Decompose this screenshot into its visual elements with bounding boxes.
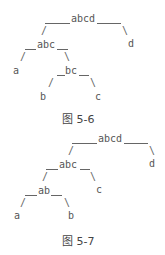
edge-line	[124, 143, 148, 144]
edge-line	[79, 75, 89, 76]
edge-line	[57, 75, 65, 76]
node-abc: abc	[59, 160, 77, 170]
node-a: a	[13, 66, 19, 76]
node-abc: abc	[37, 40, 55, 50]
edge-right: \	[90, 78, 96, 88]
node-abcd: abcd	[98, 134, 122, 144]
node-c: c	[95, 92, 101, 102]
node-b: b	[68, 211, 74, 221]
node-d: d	[128, 39, 134, 49]
edge-right: \	[149, 146, 155, 156]
figure-caption: 图 5-6	[62, 110, 94, 126]
edge-left: /	[41, 26, 47, 36]
node-d: d	[149, 159, 155, 169]
edge-line	[72, 143, 97, 144]
edge-right: \	[122, 26, 128, 36]
edge-line	[25, 49, 36, 50]
edge-line	[25, 195, 37, 196]
edge-line	[51, 195, 62, 196]
edge-line	[80, 169, 90, 170]
edge-right: \	[64, 52, 70, 62]
node-b: b	[40, 92, 46, 102]
edge-left: /	[20, 198, 26, 208]
node-c: c	[96, 185, 102, 195]
node-ab: ab	[38, 186, 50, 196]
edge-left: /	[42, 172, 48, 182]
edge-left: /	[48, 78, 54, 88]
edge-line	[45, 23, 70, 24]
edge-left: /	[68, 146, 74, 156]
edge-right: \	[90, 172, 96, 182]
node-bc: bc	[65, 66, 77, 76]
node-abcd: abcd	[71, 14, 95, 24]
figure-caption: 图 5-7	[62, 232, 94, 248]
edge-line	[46, 169, 58, 170]
edge-right: \	[64, 198, 70, 208]
edge-line	[97, 23, 121, 24]
edge-left: /	[20, 52, 26, 62]
node-a: a	[14, 211, 20, 221]
edge-line	[57, 49, 68, 50]
